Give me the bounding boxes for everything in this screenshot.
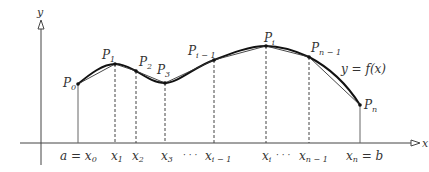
tick-label-x0: a = x0 <box>60 149 97 164</box>
point-label-pi: Pi <box>263 31 275 47</box>
point-label-p2: P2 <box>138 55 152 71</box>
point-label-p3: P3 <box>156 63 170 79</box>
tick-label-x1: x1 <box>111 149 123 164</box>
tick-label-xn: xn = b <box>346 149 383 164</box>
tick-label-x2: x2 <box>132 149 144 164</box>
x-axis-label: x <box>422 137 429 150</box>
tick-label-xn-1: xn − 1 <box>299 149 328 164</box>
tick-ellipsis-1: · · · <box>183 150 197 160</box>
y-axis-arrow-icon <box>38 20 44 29</box>
point-label-p0: P0 <box>62 76 76 92</box>
tick-label-xi-1: xi − 1 <box>205 149 231 164</box>
tick-label-x3: x3 <box>161 149 173 164</box>
tick-label-xi: xi <box>262 149 272 164</box>
tick-ellipsis-2: · · · <box>276 150 290 160</box>
point-label-pi-1: Pi − 1 <box>187 44 216 60</box>
y-axis-label: y <box>36 6 44 19</box>
point-label-pn: Pn <box>363 98 377 114</box>
point-label-p1: P1 <box>101 48 115 64</box>
curve-label: y = f(x) <box>340 62 386 76</box>
arc-length-diagram: y x P0 P1 P2 P3 Pi − 1 Pi Pn − 1 Pn <box>0 0 429 172</box>
x-axis-arrow-icon <box>411 140 420 146</box>
point-label-pn-1: Pn − 1 <box>310 41 341 57</box>
